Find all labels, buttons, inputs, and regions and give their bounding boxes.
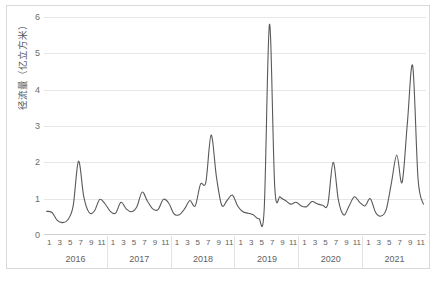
x-axis-month-tick-label: 5 <box>65 236 75 251</box>
x-axis-year-group: 1357911 <box>363 236 426 251</box>
x-axis-year-group: 1357911 <box>108 236 172 251</box>
x-axis-month-tick-label: 7 <box>139 236 149 251</box>
x-axis-month-tick-label: 7 <box>75 236 85 251</box>
x-axis-month-tick-label: 5 <box>384 236 394 251</box>
x-axis-month-tick-label: 7 <box>395 236 405 251</box>
x-axis-month-tick-label: 11 <box>352 236 362 251</box>
y-axis-tick-label: 2 <box>6 158 40 167</box>
y-axis-label: 径流量（亿立方米） <box>15 0 29 135</box>
x-axis-year-group: 1357911 <box>299 236 363 251</box>
x-axis-month-tick-label: 9 <box>150 236 160 251</box>
x-axis-month-tick-label: 5 <box>256 236 266 251</box>
x-axis-year-group: 1357911 <box>172 236 236 251</box>
x-axis-month-tick-label: 1 <box>44 236 54 251</box>
x-axis-year-label: 2018 <box>172 251 236 268</box>
x-axis-month-tick-label: 1 <box>235 236 245 251</box>
x-axis-year-label: 2021 <box>363 251 426 268</box>
x-axis-month-tick-label: 11 <box>415 236 425 251</box>
x-axis: 1357911135791113579111357911135791113579… <box>44 236 426 270</box>
x-axis-year-group: 1357911 <box>235 236 299 251</box>
x-axis-year-label: 2017 <box>108 251 172 268</box>
x-axis-month-tick-label: 1 <box>363 236 373 251</box>
x-axis-month-tick-label: 7 <box>267 236 277 251</box>
chart-figure: 0123456 径流量（亿立方米） 1357911135791113579111… <box>0 0 448 307</box>
x-axis-month-tick-label: 11 <box>288 236 298 251</box>
x-axis-month-tick-label: 3 <box>182 236 192 251</box>
x-axis-year-label: 2020 <box>299 251 363 268</box>
x-axis-month-tick-label: 3 <box>310 236 320 251</box>
series-line <box>47 24 424 226</box>
y-axis-tick-label: 0 <box>6 231 40 240</box>
x-axis-month-tick-label: 9 <box>277 236 287 251</box>
x-axis-month-tick-label: 3 <box>374 236 384 251</box>
x-axis-month-ticks: 1357911135791113579111357911135791113579… <box>44 236 426 251</box>
x-axis-year-label: 2016 <box>44 251 108 268</box>
x-axis-month-tick-label: 3 <box>246 236 256 251</box>
x-axis-month-tick-label: 1 <box>108 236 118 251</box>
x-axis-month-tick-label: 3 <box>118 236 128 251</box>
x-axis-month-tick-label: 11 <box>224 236 234 251</box>
x-axis-year-group: 1357911 <box>44 236 108 251</box>
x-axis-month-tick-label: 7 <box>203 236 213 251</box>
x-axis-month-tick-label: 1 <box>299 236 309 251</box>
y-axis-tick-label: 1 <box>6 194 40 203</box>
x-axis-month-tick-label: 5 <box>193 236 203 251</box>
x-axis-month-tick-label: 9 <box>341 236 351 251</box>
x-axis-month-tick-label: 11 <box>160 236 170 251</box>
x-axis-month-tick-label: 9 <box>214 236 224 251</box>
plot-area <box>44 17 426 235</box>
x-axis-year-label: 2019 <box>235 251 299 268</box>
x-axis-month-tick-label: 1 <box>172 236 182 251</box>
x-axis-month-tick-label: 5 <box>320 236 330 251</box>
x-axis-month-tick-label: 11 <box>96 236 106 251</box>
x-axis-month-tick-label: 9 <box>86 236 96 251</box>
series-line-chart <box>44 17 426 235</box>
x-axis-month-tick-label: 7 <box>331 236 341 251</box>
x-axis-month-tick-label: 3 <box>54 236 64 251</box>
x-axis-month-tick-label: 9 <box>405 236 415 251</box>
x-axis-month-tick-label: 5 <box>129 236 139 251</box>
x-axis-year-labels: 201620172018201920202021 <box>44 251 426 268</box>
